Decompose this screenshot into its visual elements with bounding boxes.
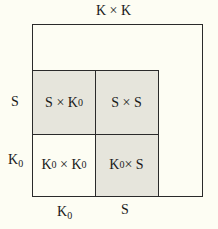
cell-k0-times-s: K0× S <box>95 134 159 198</box>
row-label-s: S <box>11 95 19 109</box>
cell-op: × <box>57 157 72 173</box>
col-label-s-text: S <box>121 202 129 217</box>
cell-text: K <box>109 157 119 173</box>
cell-s-times-k0: S × K0 <box>32 70 96 135</box>
row-label-k0: K0 <box>8 153 23 167</box>
cell-s-times-s: S × S <box>95 70 159 135</box>
cell-text: S <box>45 95 53 111</box>
cell-op: × <box>124 157 135 173</box>
cell-op: × <box>119 95 134 111</box>
cell-op: × <box>53 95 68 111</box>
cell-k0-times-k0: K0 × K0 <box>32 134 96 198</box>
row-label-s-text: S <box>11 94 19 109</box>
title-label: K × K <box>96 4 131 18</box>
cell-text: K <box>41 157 51 173</box>
cell-text: S <box>111 95 119 111</box>
row-label-k0-sub: 0 <box>18 158 23 169</box>
col-label-s: S <box>121 203 129 217</box>
col-label-k0-sub: 0 <box>67 210 72 221</box>
cell-text: S <box>136 157 144 173</box>
cell-text: K <box>68 95 78 111</box>
cell-text: S <box>134 95 142 111</box>
col-label-k0: K0 <box>57 205 72 219</box>
cell-text: K <box>71 157 81 173</box>
col-label-k0-text: K <box>57 204 67 219</box>
row-label-k0-text: K <box>8 152 18 167</box>
